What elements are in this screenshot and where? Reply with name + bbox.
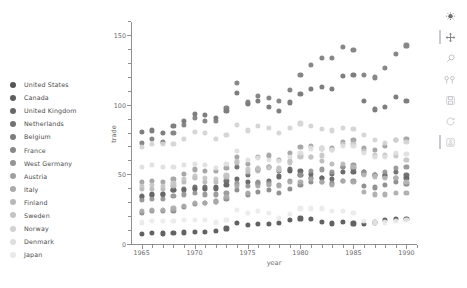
legend-item[interactable]: Japan [10,248,114,261]
legend-item[interactable]: Denmark [10,235,114,248]
x-tick [279,245,280,248]
x-tick [226,245,227,248]
legend-item[interactable]: West Germany [10,157,114,170]
y-tick-label: 50 [118,171,126,179]
chart-legend: United StatesCanadaUnited KingdomNetherl… [10,78,114,261]
y-tick [128,119,131,120]
legend-item[interactable]: Finland [10,196,114,209]
legend-item-label: United States [24,81,69,88]
x-tick [311,245,312,248]
legend-item-label: France [24,147,46,154]
zoom-icon[interactable] [440,48,460,68]
legend-marker-icon [10,121,16,127]
legend-item-label: Norway [24,225,49,232]
x-tick [205,245,206,248]
legend-item-label: United Kingdom [24,107,77,114]
x-tick-label: 1975 [239,249,255,257]
screenshot-icon[interactable] [440,132,460,152]
legend-item[interactable]: Belgium [10,130,114,143]
x-tick [216,245,217,248]
y-tick-label: 150 [114,32,126,40]
legend-item[interactable]: Norway [10,222,114,235]
x-tick [396,245,397,248]
x-tick [343,245,344,248]
y-tick-label: 0 [122,241,126,249]
chart-canvas: United StatesCanadaUnited KingdomNetherl… [0,0,467,288]
x-tick [375,245,376,248]
legend-item[interactable]: Austria [10,170,114,183]
move-icon[interactable] [440,27,460,47]
legend-item[interactable]: Netherlands [10,117,114,130]
x-tick [152,245,153,248]
legend-item-label: Denmark [24,238,54,245]
legend-marker-icon [10,199,16,205]
x-tick [237,245,238,248]
y-tick [128,230,131,231]
legend-marker-icon [10,173,16,179]
x-tick [332,245,333,248]
legend-marker-icon [10,160,16,166]
legend-marker-icon [10,108,16,114]
chart-toolbar[interactable] [437,6,463,153]
legend-item-label: Austria [24,173,47,180]
y-tick [128,160,131,161]
legend-marker-icon [10,186,16,192]
x-tick-label: 1965 [133,249,149,257]
y-tick [128,146,131,147]
legend-item-label: Finland [24,199,48,206]
y-tick [128,91,131,92]
x-axis-label: year [267,259,282,267]
legend-item[interactable]: Canada [10,91,114,104]
x-tick-label: 1980 [292,249,308,257]
legend-item[interactable]: United Kingdom [10,104,114,117]
y-tick [128,216,131,217]
legend-item[interactable]: United States [10,78,114,91]
plot-area[interactable]: 501001500196519701975198019851990 trade … [131,22,417,245]
x-tick [290,245,291,248]
legend-marker-icon [10,95,16,101]
x-tick [258,245,259,248]
x-tick [322,245,323,248]
legend-item-label: Italy [24,186,38,193]
y-tick [128,202,131,203]
x-tick [184,245,185,248]
legend-marker-icon [10,212,16,218]
y-tick [128,77,131,78]
x-tick [385,245,386,248]
x-tick [417,245,418,248]
legend-item-label: Belgium [24,133,51,140]
legend-item-label: Japan [24,251,42,258]
y-axis-label: trade [110,125,118,143]
legend-item-label: Sweden [24,212,50,219]
y-tick [127,105,131,106]
refresh-icon[interactable] [440,111,460,131]
subplots-icon[interactable] [440,69,460,89]
x-tick [364,245,365,248]
y-axis-line [131,22,132,245]
legend-item[interactable]: Sweden [10,209,114,222]
y-tick [128,21,131,22]
y-tick [127,174,131,175]
legend-marker-icon [10,134,16,140]
legend-item[interactable]: Italy [10,183,114,196]
x-tick [173,245,174,248]
legend-item-label: Netherlands [24,120,64,127]
x-tick [163,245,164,248]
x-tick [269,245,270,248]
legend-marker-icon [10,147,16,153]
y-tick [128,49,131,50]
save-icon[interactable] [440,90,460,110]
legend-marker-icon [10,226,16,232]
home-icon[interactable] [440,6,460,26]
y-tick [128,188,131,189]
x-tick-label: 1970 [186,249,202,257]
y-tick [127,244,131,245]
legend-marker-icon [10,82,16,88]
y-tick-label: 100 [114,102,126,110]
legend-marker-icon [10,239,16,245]
x-tick-label: 1990 [398,249,414,257]
y-tick [128,133,131,134]
legend-marker-icon [10,252,16,258]
legend-item[interactable]: France [10,143,114,156]
y-tick [128,63,131,64]
